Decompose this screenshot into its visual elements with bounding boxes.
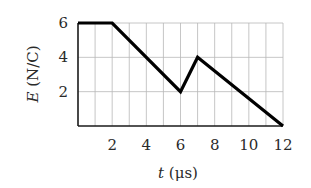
x-tick-labels: 24681012 — [107, 136, 292, 154]
x-tick-label: 2 — [107, 136, 117, 154]
x-tick-label: 10 — [239, 136, 258, 154]
x-tick-label: 8 — [210, 136, 220, 154]
y-tick-labels: 246 — [58, 14, 68, 101]
y-tick-label: 4 — [58, 48, 68, 66]
x-axis-label: t (μs) — [158, 164, 198, 182]
y-axis-unit: (N/C) — [24, 45, 42, 91]
y-tick-label: 6 — [58, 14, 68, 32]
x-axis-unit: (μs) — [164, 164, 198, 182]
x-tick-label: 6 — [176, 136, 186, 154]
electric-field-vs-time-chart: 24681012 246 t (μs) E (N/C) — [0, 0, 311, 188]
y-axis-label: E (N/C) — [24, 45, 42, 103]
y-tick-label: 2 — [58, 83, 68, 101]
x-tick-label: 12 — [273, 136, 292, 154]
x-tick-label: 4 — [142, 136, 152, 154]
y-axis-variable: E — [24, 92, 42, 104]
